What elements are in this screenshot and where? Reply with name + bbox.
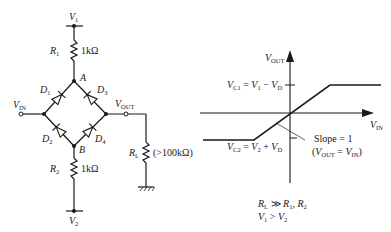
r2-value: 1kΩ (81, 164, 98, 174)
vin-terminal (19, 112, 23, 116)
r1-sub: 1 (56, 50, 59, 57)
x-axis-sub: IN (376, 124, 383, 131)
vin-sub: IN (19, 104, 26, 111)
condition-line-2: V1 > V2 (258, 212, 287, 224)
condition-line-1: RL ≫ R1, R2 (258, 199, 307, 211)
vout-terminal (124, 112, 128, 116)
r2-resistor-icon (71, 158, 77, 179)
vc2-b-sub: D (277, 146, 282, 153)
v1-node (72, 24, 76, 28)
vin-label: VIN (13, 100, 26, 112)
v1-sub: 1 (75, 16, 78, 23)
slope-equation: (VOUT = VIN) (312, 147, 362, 159)
vc1-op: − (261, 79, 272, 90)
vc2-lhs-sub: C2 (233, 146, 241, 153)
ground-hatch (144, 187, 147, 191)
d1-label: D1 (40, 85, 50, 97)
cond2-op: > (267, 211, 278, 222)
node-a (72, 79, 76, 83)
r2-label: R2 (50, 164, 59, 176)
node-b-label: B (79, 145, 85, 155)
y-axis-arrow-icon (286, 50, 294, 62)
node-b (72, 144, 76, 148)
vc1-eq: = (241, 79, 252, 90)
d3-label: D3 (97, 85, 107, 97)
vout-label: VOUT (115, 99, 134, 111)
rl-sub: L (135, 152, 139, 159)
vc2-annotation: VC2 = V2 + VD (227, 142, 282, 154)
vc2-op: + (261, 141, 272, 152)
d3-sub: 3 (104, 89, 107, 96)
vout-node (104, 112, 108, 116)
rl-label: RL (129, 148, 139, 160)
v1-label: V1 (69, 12, 78, 24)
cond1-op: ≫ (268, 198, 283, 209)
x-axis-arrow-icon (362, 109, 374, 117)
node-a-label: A (80, 73, 86, 83)
slope-close: ) (358, 146, 361, 157)
d2-sub: 2 (49, 138, 52, 145)
y-axis-sub: OUT (271, 57, 284, 64)
vin-node (42, 112, 46, 116)
x-axis-label: VIN (370, 120, 383, 132)
vc1-lhs-sub: C1 (233, 84, 241, 91)
y-axis-label: VOUT (265, 53, 284, 65)
d4-label: D4 (95, 134, 105, 146)
v2-sub: 2 (75, 220, 78, 227)
vc1-annotation: VC1 = V1 − VD (227, 80, 282, 92)
cond1-c-sub: 2 (304, 203, 307, 210)
vc1-b-sub: D (277, 84, 282, 91)
cond2-b-sub: 2 (284, 216, 287, 223)
v2-node (72, 209, 76, 213)
d4-sub: 4 (102, 138, 105, 145)
ground-hatch (140, 187, 143, 191)
r1-resistor-icon (71, 40, 77, 61)
ground-hatch (152, 187, 155, 191)
vout-sub: OUT (121, 103, 134, 110)
diagram-canvas (0, 0, 391, 232)
v2-label: V2 (69, 216, 78, 228)
slope-a-sub: OUT (321, 151, 334, 158)
rl-resistor-icon (143, 142, 149, 163)
slope-eq: = (335, 146, 346, 157)
d2-label: D2 (42, 134, 52, 146)
vc2-eq: = (241, 141, 252, 152)
rl-value: (>100kΩ) (153, 148, 193, 158)
d1-sub: 1 (47, 89, 50, 96)
r2-sub: 2 (56, 168, 59, 175)
r1-label: R1 (50, 46, 59, 58)
ground-hatch (148, 187, 151, 191)
r1-value: 1kΩ (81, 46, 98, 56)
slope-label: Slope = 1 (314, 134, 352, 144)
